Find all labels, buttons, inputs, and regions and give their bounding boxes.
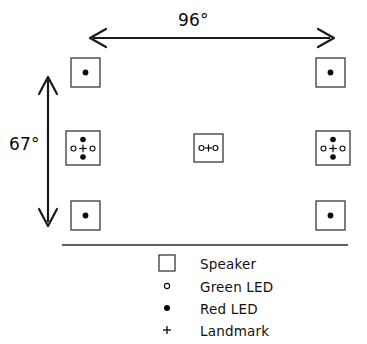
- red-led: [83, 213, 89, 219]
- open-circle-icon: [164, 283, 169, 288]
- legend-label-red-led: Red LED: [200, 301, 258, 317]
- horizontal-dimension-arrow: [90, 29, 334, 47]
- speaker-top-right[interactable]: [316, 58, 345, 87]
- green-led-left: [199, 146, 204, 151]
- red-led-bottom: [330, 154, 336, 160]
- red-led-bottom: [80, 154, 86, 160]
- speaker-bottom-right[interactable]: [316, 201, 345, 230]
- legend-label-speaker: Speaker: [200, 256, 256, 272]
- speaker-middle-right[interactable]: [316, 131, 350, 165]
- speaker-bottom-left[interactable]: [71, 201, 100, 230]
- green-led-right: [340, 146, 345, 151]
- vertical-dimension-label: 67°: [9, 134, 40, 154]
- horizontal-dimension-label: 96°: [178, 10, 209, 30]
- legend-symbol-speaker: [159, 255, 175, 271]
- speaker-top-left[interactable]: [71, 58, 100, 87]
- legend-label-landmark: Landmark: [200, 323, 269, 339]
- speaker-middle-center[interactable]: [194, 134, 223, 162]
- green-led-left: [321, 146, 326, 151]
- legend-symbol-red-led: [164, 305, 170, 311]
- green-led-right: [90, 146, 95, 151]
- red-led: [83, 70, 89, 76]
- red-led: [328, 213, 334, 219]
- vertical-dimension-arrow: [39, 77, 57, 226]
- speaker-middle-left[interactable]: [66, 131, 100, 165]
- legend-label-green-led: Green LED: [200, 279, 273, 295]
- green-led-left: [71, 146, 76, 151]
- green-led-right: [213, 146, 218, 151]
- legend-symbol-green-led: [164, 283, 169, 288]
- legend-symbol-landmark: [163, 326, 171, 334]
- diagram-canvas: [0, 0, 367, 344]
- filled-circle-icon: [164, 305, 170, 311]
- red-led: [328, 70, 334, 76]
- red-led-top: [80, 137, 86, 143]
- diagram-root: 96° 67° Speaker Green LED Red LED Landma…: [0, 0, 367, 344]
- square-outline-icon: [159, 255, 175, 271]
- red-led-top: [330, 137, 336, 143]
